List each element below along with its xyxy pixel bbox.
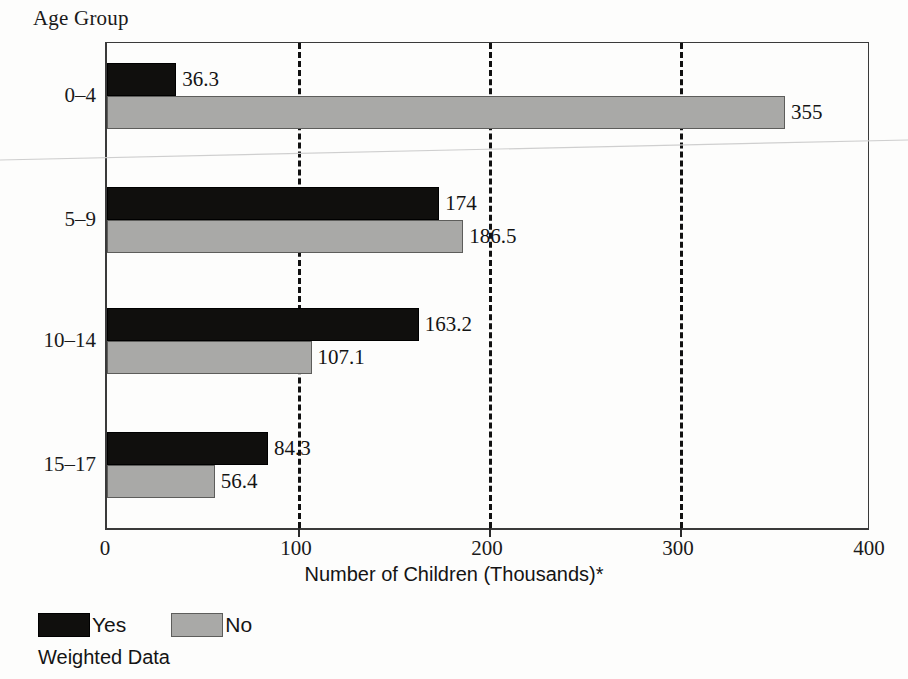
bar-no-10–14 xyxy=(107,341,312,374)
legend: Yes No xyxy=(38,613,252,637)
bar-no-5–9 xyxy=(107,220,463,253)
x-axis-title: Number of Children (Thousands)* xyxy=(0,563,908,586)
bar-yes-10–14 xyxy=(107,308,419,341)
bar-no-0–4 xyxy=(107,96,785,129)
category-label-5–9: 5–9 xyxy=(65,207,97,232)
x-tick-label-200: 200 xyxy=(471,536,503,561)
chart-page: Age Group 0–45–910–1415–17 36.3355174186… xyxy=(0,0,908,679)
bar-no-15–17 xyxy=(107,465,215,498)
bar-value-label: 186.5 xyxy=(469,223,516,248)
bar-value-label: 84.3 xyxy=(274,435,311,460)
x-tick-label-0: 0 xyxy=(100,536,111,561)
footnote: Weighted Data xyxy=(38,646,170,669)
legend-item-no[interactable]: No xyxy=(171,613,252,637)
legend-item-yes[interactable]: Yes xyxy=(38,613,126,637)
legend-swatch-no xyxy=(171,613,223,637)
x-tick-label-100: 100 xyxy=(280,536,312,561)
x-tick-label-300: 300 xyxy=(662,536,694,561)
legend-label-yes: Yes xyxy=(92,613,126,637)
category-label-10–14: 10–14 xyxy=(44,328,97,353)
plot-area xyxy=(105,42,869,530)
category-label-15–17: 15–17 xyxy=(44,452,97,477)
bar-value-label: 163.2 xyxy=(425,311,472,336)
category-label-0–4: 0–4 xyxy=(65,83,97,108)
bar-yes-5–9 xyxy=(107,187,439,220)
bar-yes-0–4 xyxy=(107,63,176,96)
bar-yes-15–17 xyxy=(107,432,268,465)
bar-value-label: 174 xyxy=(445,190,477,215)
bar-value-label: 36.3 xyxy=(182,66,219,91)
bar-value-label: 355 xyxy=(791,99,823,124)
legend-swatch-yes xyxy=(38,613,90,637)
x-tick-label-400: 400 xyxy=(853,536,885,561)
bar-value-label: 56.4 xyxy=(221,468,258,493)
legend-label-no: No xyxy=(225,613,252,637)
bar-value-label: 107.1 xyxy=(318,344,365,369)
